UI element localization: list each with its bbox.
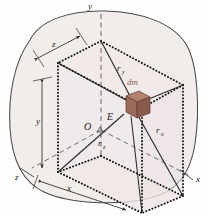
dimension-label-x: x: [66, 183, 71, 193]
radius-label-rx-sub: x: [160, 131, 164, 137]
axis-label-x: x: [195, 174, 200, 184]
radius-label-rz-base: r: [98, 138, 102, 148]
mass-element-dm: [126, 91, 150, 118]
radius-label-rx-base: r: [156, 125, 160, 135]
axis-label-y: y: [87, 1, 92, 11]
figure-container: y x z O E dm r y r x r z z y x: [0, 0, 210, 219]
dimension-label-y: y: [35, 116, 40, 126]
point-label-origin: O: [84, 121, 91, 132]
radius-label-ry-sub: y: [121, 69, 125, 75]
mass-element-label: dm: [127, 77, 139, 87]
axis-label-z: z: [14, 172, 19, 182]
radius-label-ry-base: r: [117, 63, 121, 73]
dimension-label-z: z: [51, 39, 56, 49]
mass-element-diagram: y x z O E dm r y r x r z z y x: [0, 0, 210, 219]
point-label-e: E: [106, 111, 113, 122]
